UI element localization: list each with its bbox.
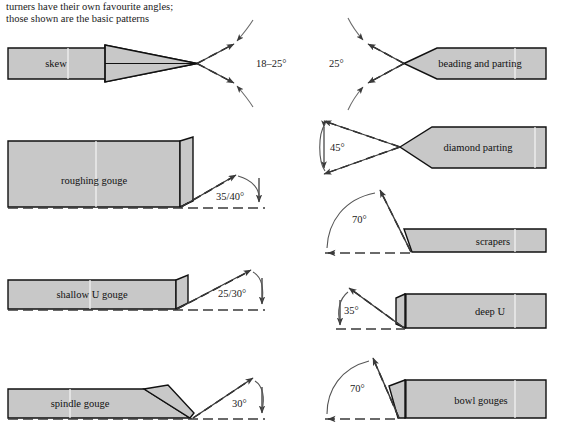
tool-label-bowl-gouges: bowl gouges [454,395,507,406]
tool-group-spindle-gouge: spindle gouge 30° [8,378,265,419]
tool-label-diamond-parting: diamond parting [443,142,513,153]
tool-label-beading-and-parting: beading and parting [438,58,522,69]
angle-label-diamond-parting: 45° [330,142,345,153]
angle-label-beading-and-parting: 25° [329,58,344,69]
angle-label-deep-u: 35° [344,305,359,316]
diagram-canvas: turners have their own favourite angles;… [0,0,572,433]
tool-group-shallow-u-gouge: shallow U gouge 25/30° [8,270,265,310]
tool-group-diamond-parting: diamond parting 45° [320,121,546,174]
tool-label-scrapers: scrapers [476,236,510,247]
angle-label-skew: 18–25° [256,58,286,69]
tool-group-skew: skew 18–25° [8,20,286,107]
tool-group-scrapers: scrapers 70° [325,190,546,253]
tool-group-roughing-gouge: roughing gouge 35/40° [8,137,265,208]
angle-label-roughing-gouge: 35/40° [216,191,244,202]
tool-group-bowl-gouges: bowl gouges 70° [325,358,546,419]
tool-label-skew: skew [45,58,67,69]
tool-label-shallow-u-gouge: shallow U gouge [56,289,127,300]
tool-group-beading-and-parting: beading and parting 25° [329,18,546,110]
tool-angles-diagram: skew 18–25° beading and parting 25° [0,0,572,433]
tool-label-deep-u: deep U [475,306,505,317]
angle-label-shallow-u-gouge: 25/30° [218,288,246,299]
angle-label-scrapers: 70° [352,214,367,225]
angle-label-spindle-gouge: 30° [232,398,247,409]
angle-label-bowl-gouges: 70° [350,383,365,394]
tool-label-roughing-gouge: roughing gouge [61,175,128,186]
tool-label-spindle-gouge: spindle gouge [51,398,110,409]
tool-group-deep-u: deep U 35° [336,288,546,329]
